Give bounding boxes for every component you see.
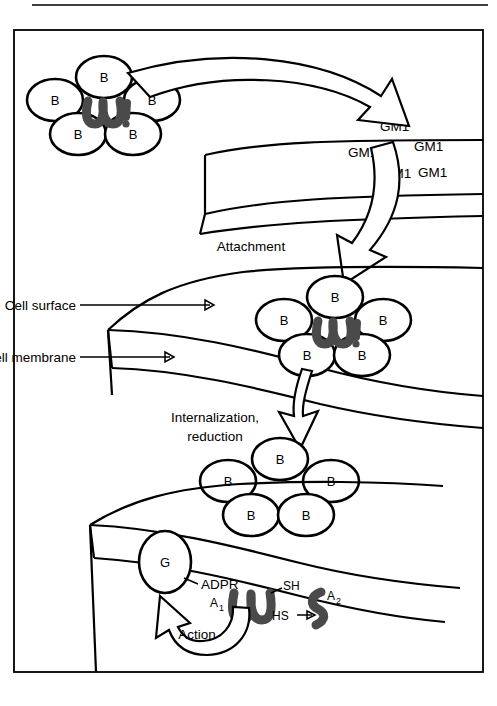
cholera-toxin-diagram: GM1 GM1 GM1 GM1 GM1 B B B B B Attachment xyxy=(0,0,497,706)
figure-canvas: GM1 GM1 GM1 GM1 GM1 B B B B B Attachment xyxy=(0,0,497,706)
a2-subscript: 2 xyxy=(336,596,341,606)
internalization-line1: Internalization, xyxy=(171,410,259,425)
a1-label: A xyxy=(210,596,218,610)
b-subunit-label: B xyxy=(302,508,311,523)
b-subunit-label: B xyxy=(331,290,340,305)
attachment-down-arrow xyxy=(337,142,399,284)
callout-cell-surface: Cell surface xyxy=(5,298,214,313)
a-subunit-tail xyxy=(126,103,127,117)
arrow-attachment xyxy=(337,142,399,284)
b-subunit-label: B xyxy=(358,348,367,363)
b-subunit-label: B xyxy=(280,313,289,328)
step-label-action: Action xyxy=(178,627,216,642)
cell-surface-label: Cell surface xyxy=(5,298,76,313)
b-subunit-label: B xyxy=(303,348,312,363)
a-subunit-squiggle xyxy=(316,321,351,344)
cell-membrane-label: Cell membrane xyxy=(0,350,76,365)
a2-fragment: A 2 HS xyxy=(272,589,341,625)
a2-label: A xyxy=(327,589,335,603)
sh-label-a1: SH xyxy=(283,579,300,593)
step-label-attachment: Attachment xyxy=(217,239,286,254)
b-subunit-label: B xyxy=(224,474,233,489)
hs-label-a2: HS xyxy=(272,609,289,623)
b-subunit-label: B xyxy=(129,127,138,142)
upper-membrane xyxy=(200,140,483,234)
b-subunit-label: B xyxy=(100,70,109,85)
a2-squiggle xyxy=(312,592,323,625)
b-subunit-label: B xyxy=(74,127,83,142)
toxin-cluster-dissociated: B B B B B xyxy=(200,438,359,536)
step-label-internalization: Internalization, reduction xyxy=(171,410,259,444)
toxin-cluster-bound: B B B B B xyxy=(256,276,411,376)
b-subunit-label: B xyxy=(51,93,60,108)
a-subunit-squiggle xyxy=(86,101,121,124)
a1-subscript: 1 xyxy=(219,603,224,613)
b-subunit-label: B xyxy=(379,313,388,328)
callout-cell-membrane: Cell membrane xyxy=(0,350,174,365)
g-protein-label: G xyxy=(160,555,170,570)
gm1-label: GM1 xyxy=(414,139,443,154)
a-subunit-tail xyxy=(356,323,357,337)
gm1-label: GM1 xyxy=(418,165,447,180)
g-protein-group: G ADPR xyxy=(139,531,239,593)
internalization-line2: reduction xyxy=(187,429,243,444)
b-subunit-label: B xyxy=(276,452,285,467)
a-subunit-dot xyxy=(352,340,359,347)
b-subunit-label: B xyxy=(247,508,256,523)
